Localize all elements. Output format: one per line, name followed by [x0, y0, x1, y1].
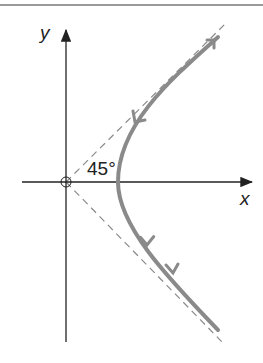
direction-arrows — [133, 40, 214, 273]
x-axis-label: x — [240, 188, 250, 210]
arrow-icon — [166, 264, 178, 273]
y-axis-label: y — [40, 22, 50, 44]
angle-label: 45° — [87, 158, 116, 180]
hyperbola-diagram — [0, 0, 263, 363]
asymptote-lower — [66, 182, 224, 344]
